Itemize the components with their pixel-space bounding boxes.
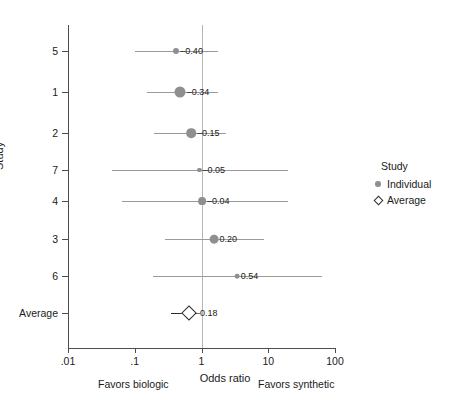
- forest-plot-figure: Study 5127436Average .01.1110100 –0.40–0…: [0, 0, 450, 409]
- legend-item-average[interactable]: Average: [372, 194, 431, 206]
- y-axis-tick: [62, 201, 68, 202]
- study-marker[interactable]: [198, 197, 206, 205]
- legend-item-label: Average: [387, 194, 426, 206]
- study-marker[interactable]: [175, 87, 186, 98]
- open-diamond-icon: [372, 197, 384, 204]
- null-reference-line: [202, 25, 203, 348]
- x-axis-tick: [202, 348, 203, 353]
- y-axis-tick: [62, 313, 68, 314]
- y-axis-tick-label: Average: [19, 308, 58, 319]
- y-axis-tick: [62, 239, 68, 240]
- y-axis-tick-label: 3: [52, 234, 58, 245]
- point-value-label: –0.18: [195, 309, 218, 318]
- legend-item-label: Individual: [387, 178, 431, 190]
- y-axis-tick-label: 2: [52, 128, 58, 139]
- point-value-label: –0.34: [187, 88, 210, 97]
- x-axis-tick: [135, 348, 136, 353]
- x-axis-tick-label: 1: [180, 355, 224, 367]
- filled-circle-icon: [372, 181, 384, 187]
- point-value-label: 0.20: [220, 235, 238, 244]
- study-marker[interactable]: [173, 48, 179, 54]
- x-axis-tick: [68, 348, 69, 353]
- y-axis-tick: [62, 276, 68, 277]
- x-axis-tick-label: 10: [246, 355, 290, 367]
- x-axis-title: Odds ratio: [0, 372, 450, 384]
- y-axis-tick-label: 5: [52, 46, 58, 57]
- point-value-label: –0.04: [207, 197, 230, 206]
- x-axis-tick-label: .01: [46, 355, 90, 367]
- y-axis-tick-label: 4: [52, 196, 58, 207]
- point-value-label: –0.15: [197, 129, 220, 138]
- x-axis-tick-label: 100: [313, 355, 357, 367]
- y-axis-title: Study: [0, 142, 5, 170]
- point-value-label: –0.40: [180, 47, 203, 56]
- y-axis-tick: [62, 170, 68, 171]
- study-marker[interactable]: [235, 274, 240, 279]
- x-axis-tick-label: .1: [113, 355, 157, 367]
- legend: Study Individual Average: [372, 160, 431, 210]
- x-axis-tick: [335, 348, 336, 353]
- y-axis-tick-label: 7: [52, 165, 58, 176]
- legend-title: Study: [381, 160, 431, 172]
- point-value-label: –0.05: [202, 166, 225, 175]
- x-axis-tick: [268, 348, 269, 353]
- point-value-label: 0.54: [241, 272, 259, 281]
- y-axis-tick: [62, 51, 68, 52]
- study-marker[interactable]: [186, 128, 196, 138]
- y-axis-tick: [62, 133, 68, 134]
- y-axis-line: [68, 25, 69, 348]
- y-axis-tick-label: 1: [52, 87, 58, 98]
- y-axis-tick-label: 6: [52, 271, 58, 282]
- favors-right-annotation: Favors synthetic: [258, 378, 334, 390]
- y-axis-tick: [62, 92, 68, 93]
- favors-left-annotation: Favors biologic: [98, 378, 169, 390]
- legend-item-individual[interactable]: Individual: [372, 178, 431, 190]
- study-marker[interactable]: [210, 235, 219, 244]
